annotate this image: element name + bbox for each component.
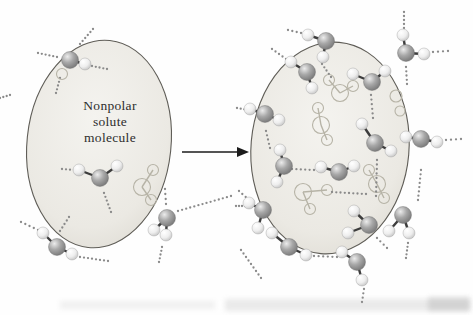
oxygen-atom — [255, 202, 272, 219]
oxygen-atom — [364, 74, 381, 91]
hydrogen-bond-dot — [252, 266, 254, 268]
hydrogen-bond-dot — [376, 163, 378, 165]
hydrogen-bond-dot — [417, 195, 419, 197]
hydrogen-bond-dot — [287, 29, 289, 31]
hydrogen-bond-dot — [37, 52, 39, 54]
hydrogen-bond-dot — [403, 11, 405, 13]
hydrogen-bond-dot — [300, 168, 302, 170]
oxygen-atom — [159, 210, 176, 227]
hydrogen-bond-dot — [235, 205, 237, 207]
hydrogen-atom — [342, 227, 354, 239]
hydrogen-atom — [348, 160, 360, 172]
hydrogen-bond-dot — [339, 191, 341, 193]
hydrogen-atom — [383, 225, 395, 237]
hydrogen-bond-dot — [2, 96, 4, 98]
hydrogen-bond-dot — [103, 259, 105, 261]
hydrogen-bond-dot — [33, 227, 35, 229]
hydrogen-bond-dot — [83, 256, 85, 258]
oxygen-atom — [398, 45, 415, 62]
hydrogen-bond — [37, 52, 58, 58]
hydrogen-bond-dot — [375, 195, 377, 197]
hydrogen-bond-dot — [241, 193, 243, 195]
hydrogen-bond-dot — [376, 159, 378, 161]
hydrogen-bond-dot — [66, 219, 68, 221]
hydrogen-atom — [385, 145, 397, 157]
hydrogen-bond-dot — [442, 50, 444, 52]
hydrogen-bond-dot — [245, 256, 247, 258]
reaction-arrow — [182, 147, 249, 157]
left-panel — [0, 28, 232, 263]
hydrogen-bond — [405, 66, 408, 85]
hydrogen-bond-dot — [308, 169, 310, 171]
hydrogen-bond-dot — [281, 55, 283, 57]
hydrogen-atom — [317, 51, 329, 63]
oxygen-atom — [349, 254, 366, 271]
solute-label-line: Nonpolar — [83, 98, 137, 113]
hydrogen-bond-dot — [110, 211, 112, 213]
hydrogen-bond-dot — [92, 28, 94, 30]
hydrogen-bond-dot — [269, 147, 271, 149]
hydrogen-bond-dot — [291, 30, 293, 32]
hydrogen-atom — [356, 274, 368, 286]
hydrogen-bond-dot — [327, 255, 329, 257]
hydrogen-bond-dot — [405, 253, 407, 255]
hydrogen-atom — [273, 114, 285, 126]
hydrogen-bond-dot — [274, 50, 276, 52]
hydrogen-bond-dot — [418, 190, 420, 192]
right-panel — [235, 11, 462, 303]
hydrogen-bond-dot — [107, 260, 109, 262]
hydrogen-bond-dot — [405, 70, 407, 72]
hydrogen-bond-dot — [419, 182, 421, 184]
hydrogen-bond-dot — [260, 277, 262, 279]
hydrogen-bond-dot — [365, 193, 367, 195]
hydrogen-bond-dot — [164, 188, 166, 190]
hydrogen-bond-dot — [89, 31, 91, 33]
hydrogen-bond-dot — [450, 139, 452, 141]
hydrogen-bond-dot — [362, 297, 364, 299]
hydrogen-bond-dot — [218, 198, 220, 200]
hydrogen-bond-dot — [375, 177, 377, 179]
hydrogen-bond-dot — [236, 107, 238, 109]
hydrogen-bond — [164, 188, 167, 205]
hydrogen-bond-dot — [103, 192, 105, 194]
solute-label-line: solute — [93, 114, 127, 129]
hydrogen-atom — [431, 136, 443, 148]
hydrogen-atom — [285, 56, 297, 68]
hydrogen-bond-dot — [255, 270, 257, 272]
hydrogen-bond-dot — [201, 203, 203, 205]
hydrogen-atom — [400, 131, 412, 143]
hydrogen-atom — [243, 197, 255, 209]
hydrogen-atom — [403, 227, 415, 239]
hydrogen-bond-dot — [107, 203, 109, 205]
hydrogen-bond-dot — [106, 68, 108, 70]
hydrogen-bond-dot — [445, 139, 447, 141]
hydrogen-bond-dot — [87, 34, 89, 36]
oxygen-atom — [367, 135, 384, 152]
hydrogen-bond-dot — [313, 169, 315, 171]
hydrogen-bond — [0, 94, 11, 99]
hydrogen-bond-dot — [226, 196, 228, 198]
hydrogen-bond-dot — [159, 257, 161, 259]
hydrogen-bond-dot — [405, 257, 407, 259]
scan-artifacts — [60, 297, 470, 311]
hydrogen-bond-dot — [335, 191, 337, 193]
hydrogen-atom — [274, 144, 286, 156]
hydrogen-bond-dot — [348, 192, 350, 194]
hydrogen-bond-dot — [65, 168, 67, 170]
hydrogen-atom — [348, 205, 360, 217]
hydrogen-bond-dot — [325, 69, 327, 71]
hydrogen-bond — [376, 237, 388, 249]
hydrogen-bond-dot — [376, 168, 378, 170]
hydrogen-bond-dot — [379, 240, 381, 242]
hydrogen-bond-dot — [108, 207, 110, 209]
hydrogen-atom — [336, 246, 348, 258]
hydrogen-bond-dot — [295, 168, 297, 170]
hydrogen-bond — [403, 11, 405, 29]
hydrogen-bond — [432, 50, 449, 53]
hydrogen-bond-dot — [371, 112, 373, 114]
hydrogen-bond-dot — [68, 216, 70, 218]
hydrogen-bond-dot — [362, 292, 364, 294]
water-molecule — [397, 29, 430, 62]
hydrogen-atom — [37, 227, 49, 239]
oxygen-atom — [331, 164, 348, 181]
